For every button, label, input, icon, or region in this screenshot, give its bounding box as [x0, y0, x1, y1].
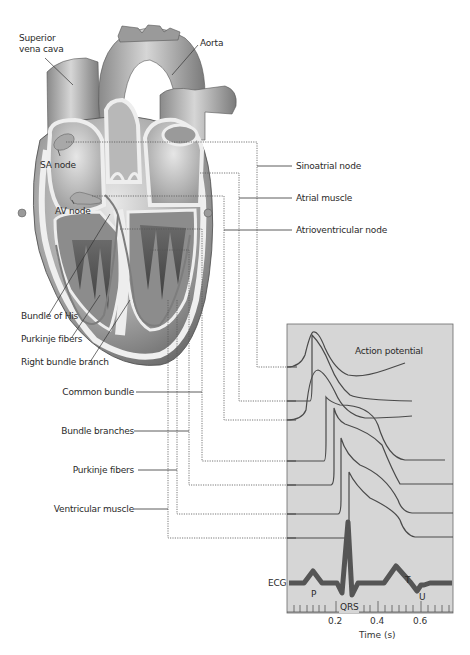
label-common-bundle: Common bundle: [62, 387, 134, 398]
ecg-wave-t: T: [405, 575, 410, 586]
label-sinoatrial-node: Sinoatrial node: [296, 161, 361, 172]
x-tick-0-2: 0.2: [328, 616, 342, 626]
ecg-label: ECG: [268, 578, 286, 589]
label-purkinje-fibers-heart: Purkinje fibers: [21, 334, 82, 345]
label-bundle-of-his: Bundle of His: [21, 311, 78, 322]
label-ventricular-muscle: Ventricular muscle: [54, 504, 134, 515]
action-potential-chart: [287, 324, 453, 613]
label-superior-vena-cava-2: vena cava: [19, 44, 63, 55]
x-axis-label: Time (s): [359, 630, 396, 640]
x-tick-0-4: 0.4: [370, 616, 384, 626]
ecg-wave-qrs: QRS: [339, 602, 359, 613]
label-purkinje-fibers: Purkinje fibers: [73, 465, 134, 476]
label-atrioventricular-node: Atrioventricular node: [296, 225, 387, 236]
label-superior-vena-cava-1: Superior: [19, 33, 55, 44]
ecg-wave-u: U: [419, 592, 425, 603]
label-bundle-branches: Bundle branches: [61, 426, 134, 437]
chart-title: Action potential: [355, 346, 423, 357]
label-av-node: AV node: [55, 206, 91, 217]
label-sa-node: SA node: [40, 160, 76, 171]
x-tick-0-6: 0.6: [413, 616, 427, 626]
label-right-bundle-branch: Right bundle branch: [21, 357, 109, 368]
ecg-wave-p: P: [311, 589, 316, 600]
cardiac-conduction-diagram: [0, 0, 470, 655]
label-aorta: Aorta: [200, 38, 223, 49]
label-atrial-muscle: Atrial muscle: [296, 193, 352, 204]
